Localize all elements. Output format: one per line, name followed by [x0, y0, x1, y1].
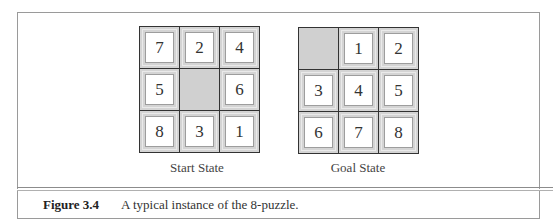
puzzle-cell: 5 [140, 69, 179, 110]
figure-caption: A typical instance of the 8-puzzle. [121, 197, 299, 213]
blank-cell [299, 28, 338, 69]
puzzle-tile: 1 [225, 116, 254, 147]
puzzle-cell: 3 [180, 111, 219, 152]
puzzle-tile: 4 [225, 32, 254, 63]
goal-state-board: 12345678 [298, 27, 419, 154]
puzzle-tile: 1 [344, 33, 373, 64]
puzzle-cell: 8 [140, 111, 179, 152]
puzzle-cell: 2 [180, 27, 219, 68]
puzzle-tile: 3 [304, 75, 333, 106]
figure-frame [17, 12, 540, 189]
puzzle-tile: 8 [145, 116, 174, 147]
puzzle-tile: 6 [304, 117, 333, 148]
puzzle-tile: 2 [384, 33, 413, 64]
puzzle-cell: 1 [339, 28, 378, 69]
puzzle-tile: 4 [344, 75, 373, 106]
goal-state-label: Goal State [293, 160, 423, 176]
puzzle-tile: 7 [344, 117, 373, 148]
puzzle-cell: 2 [379, 28, 418, 69]
start-state-label: Start State [132, 160, 262, 176]
puzzle-cell: 6 [220, 69, 259, 110]
caption-rule-top [17, 187, 553, 188]
puzzle-tile: 5 [384, 75, 413, 106]
puzzle-cell: 3 [299, 70, 338, 111]
puzzle-cell: 4 [220, 27, 259, 68]
puzzle-cell: 7 [339, 112, 378, 153]
puzzle-cell: 4 [339, 70, 378, 111]
puzzle-tile: 3 [185, 116, 214, 147]
puzzle-tile: 7 [145, 32, 174, 63]
blank-cell [180, 69, 219, 110]
puzzle-tile: 5 [145, 74, 174, 105]
puzzle-cell: 8 [379, 112, 418, 153]
start-state-board: 72456831 [139, 26, 260, 153]
puzzle-tile: 2 [185, 32, 214, 63]
puzzle-cell: 7 [140, 27, 179, 68]
puzzle-cell: 6 [299, 112, 338, 153]
puzzle-tile: 8 [384, 117, 413, 148]
puzzle-tile: 6 [225, 74, 254, 105]
figure-number: Figure 3.4 [43, 197, 99, 213]
puzzle-cell: 1 [220, 111, 259, 152]
puzzle-cell: 5 [379, 70, 418, 111]
